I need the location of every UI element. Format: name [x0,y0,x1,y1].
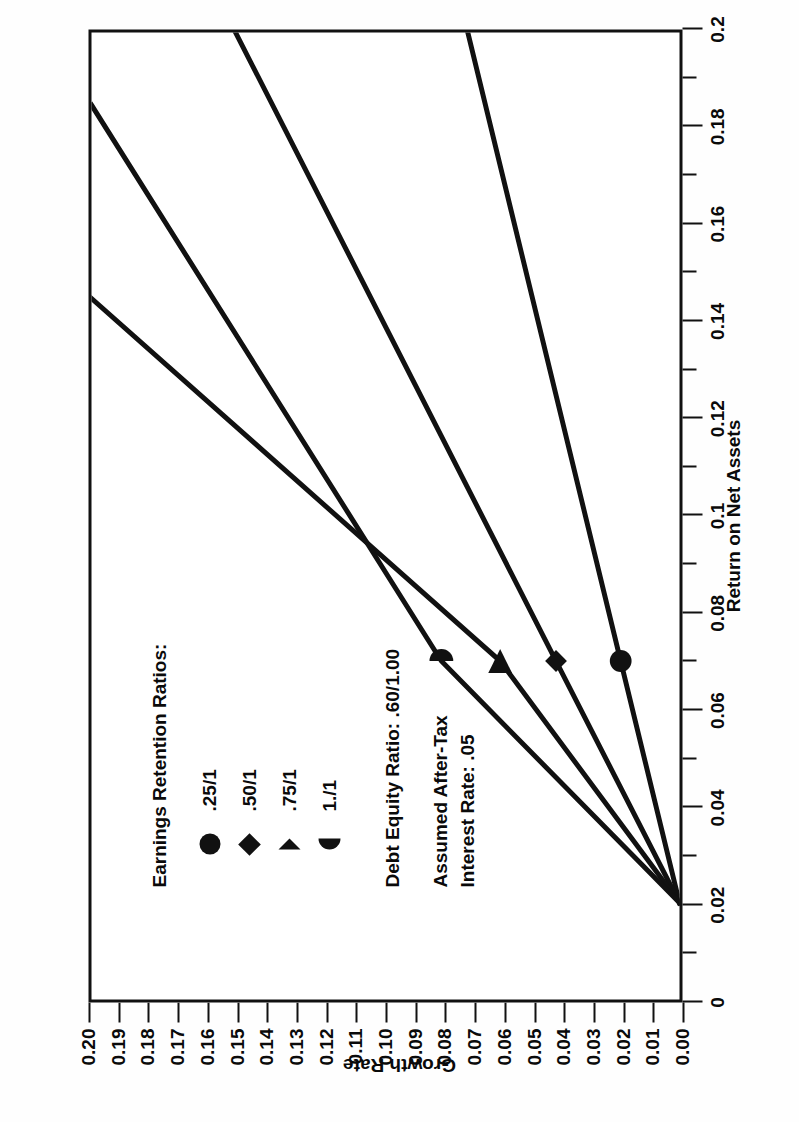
x-axis-tick [682,805,702,807]
y-axis-tick-label: 0.06 [493,1028,515,1065]
y-axis-tick [593,1002,595,1022]
series-line [467,32,679,902]
y-axis-tick [474,1002,476,1022]
y-axis-tick-label: 0.18 [136,1028,158,1065]
x-axis-tick [682,124,702,126]
y-axis-tick-label: 0.13 [285,1028,307,1065]
x-axis-tick [682,708,702,710]
y-axis-tick [444,1002,446,1022]
y-axis-tick [563,1002,565,1022]
y-axis-tick-label: 0.11 [344,1028,366,1064]
legend-item-label: .75/1 [278,769,300,811]
y-axis-tick-label: 0.07 [463,1028,485,1065]
y-axis-tick [118,1002,120,1022]
triangle-marker-icon [278,827,300,861]
y-axis-tick-label: 0.12 [315,1028,337,1065]
y-axis-tick-label: 0.15 [226,1028,248,1065]
note-interest-rate: Interest Rate: .05 [453,648,481,887]
half-circle-marker-icon [318,827,340,861]
x-axis-tick [682,514,702,516]
y-axis-tick [207,1002,209,1022]
y-axis-tick [326,1002,328,1022]
legend: Earnings Retention Ratios: .25/1 .50/1 .… [148,643,352,887]
y-axis-tick [623,1002,625,1022]
diamond-marker-icon [241,827,257,861]
legend-item-50-1: .50/1 [232,643,266,887]
x-axis-minor-tick [682,368,696,370]
y-axis-tick-label: 0.17 [166,1028,188,1065]
y-axis-tick [266,1002,268,1022]
x-axis-tick [682,611,702,613]
y-axis: Growth Rate 0.000.010.020.030.040.050.06… [88,1002,682,1122]
y-axis-tick-label: 0.14 [255,1028,277,1065]
chart-page: Growth Rate 0.000.010.020.030.040.050.06… [0,0,799,1122]
chart-figure: Growth Rate 0.000.010.020.030.040.050.06… [0,0,799,1122]
y-axis-tick [237,1002,239,1022]
x-axis-title: Return on Net Assets [722,29,744,1002]
x-axis-minor-tick [682,76,696,78]
x-axis-tick [682,903,702,905]
y-axis-tick-label: 0.16 [196,1028,218,1065]
x-axis-minor-tick [682,173,696,175]
legend-item-1-1: 1./1 [312,643,346,887]
x-axis-tick [682,416,702,418]
y-axis-tick-label: 0.10 [374,1028,396,1065]
y-axis-tick [385,1002,387,1022]
x-axis-minor-tick [682,757,696,759]
x-axis-tick [682,27,702,29]
note-assumed-after-tax: Assumed After-Tax [426,648,454,887]
series-marker [609,650,631,672]
note-debt-equity-ratio: Debt Equity Ratio: .60/1.00 [378,648,406,887]
y-axis-tick-label: 0.02 [612,1028,634,1065]
x-axis-minor-tick [682,951,696,953]
y-axis-tick-label: 0.05 [523,1028,545,1065]
y-axis-tick-label: 0.20 [77,1028,99,1065]
x-axis-tick [682,222,702,224]
y-axis-tick-label: 0.09 [404,1028,426,1065]
y-axis-tick [682,1002,684,1022]
legend-title: Earnings Retention Ratios: [148,643,170,887]
legend-item-75-1: .75/1 [272,643,306,887]
y-axis-tick-label: 0.01 [641,1028,663,1065]
y-axis-tick [88,1002,90,1022]
legend-item-label: .50/1 [238,769,260,811]
y-axis-tick [147,1002,149,1022]
y-axis-tick [504,1002,506,1022]
legend-item-label: .25/1 [198,769,220,811]
x-axis-tick [682,1000,702,1002]
x-axis-minor-tick [682,270,696,272]
y-axis-tick [296,1002,298,1022]
y-axis-tick-label: 0.04 [552,1028,574,1065]
legend-item-label: 1./1 [318,779,340,811]
x-axis-minor-tick [682,854,696,856]
legend-item-25-1: .25/1 [192,643,226,887]
chart-annotations: Debt Equity Ratio: .60/1.00 Assumed Afte… [378,648,481,887]
y-axis-tick-label: 0.03 [582,1028,604,1065]
circle-marker-icon [199,827,220,861]
series-marker [545,650,567,672]
y-axis-tick-label: 0.08 [433,1028,455,1065]
y-axis-tick [652,1002,654,1022]
x-axis-minor-tick [682,659,696,661]
y-axis-tick-label: 0.19 [107,1028,129,1065]
rotated-figure-wrapper: Growth Rate 0.000.010.020.030.040.050.06… [0,0,799,1122]
y-axis-tick-label: 0.00 [671,1028,693,1065]
y-axis-tick [355,1002,357,1022]
y-axis-tick [534,1002,536,1022]
x-axis-minor-tick [682,562,696,564]
y-axis-tick [415,1002,417,1022]
y-axis-tick [177,1002,179,1022]
x-axis-tick [682,319,702,321]
x-axis-minor-tick [682,465,696,467]
